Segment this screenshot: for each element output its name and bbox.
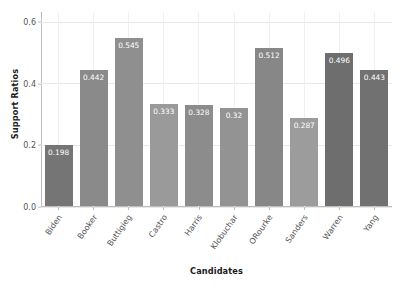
x-tick-mark <box>163 207 164 210</box>
x-tick-mark <box>58 207 59 210</box>
x-tick-label: Castro <box>147 213 169 239</box>
x-tick-label: Klobuchar <box>209 213 239 251</box>
bar-value-label: 0.333 <box>150 107 178 116</box>
bar-value-label: 0.512 <box>255 51 283 60</box>
x-tick-label: Yang <box>362 213 380 234</box>
bar-value-label: 0.442 <box>80 73 108 82</box>
bar: 0.287 <box>290 118 318 206</box>
x-tick-mark <box>304 207 305 210</box>
x-tick-label: ORourke <box>248 213 275 246</box>
x-tick-label: Biden <box>43 213 63 237</box>
bar-value-label: 0.198 <box>45 148 73 157</box>
bar: 0.32 <box>220 108 248 207</box>
bar-series: 0.1980.4420.5450.3330.3280.320.5120.2870… <box>41 12 392 207</box>
x-tick-label: Harris <box>183 213 204 238</box>
x-tick-mark <box>128 207 129 210</box>
x-axis-ticks: BidenBookerButtigiegCastroHarrisKlobucha… <box>41 207 392 265</box>
x-tick-mark <box>199 207 200 210</box>
bar: 0.512 <box>255 48 283 206</box>
bar-value-label: 0.443 <box>360 73 388 82</box>
x-axis-label: Candidates <box>41 266 392 276</box>
x-tick-mark <box>234 207 235 210</box>
x-tick-mark <box>93 207 94 210</box>
y-tick-label: 0.6 <box>23 18 36 27</box>
bar: 0.496 <box>325 53 353 206</box>
x-tick-mark <box>339 207 340 210</box>
bar: 0.545 <box>115 38 143 206</box>
y-axis-label-text: Support Ratios <box>10 68 20 138</box>
x-tick-label: Buttigieg <box>106 213 134 248</box>
bar-value-label: 0.496 <box>325 56 353 65</box>
bar: 0.443 <box>360 70 388 207</box>
bar: 0.442 <box>80 70 108 206</box>
bar-value-label: 0.32 <box>220 111 248 120</box>
bar: 0.198 <box>45 145 73 206</box>
y-tick-label: 0.0 <box>23 203 36 212</box>
plot-area: 0.00.20.40.6 0.1980.4420.5450.3330.3280.… <box>41 12 392 207</box>
x-tick-label: Booker <box>76 213 99 241</box>
x-tick-label: Sanders <box>284 213 310 245</box>
bar: 0.328 <box>185 105 213 206</box>
x-tick-mark <box>374 207 375 210</box>
y-tick-label: 0.4 <box>23 79 36 88</box>
x-tick-mark <box>269 207 270 210</box>
bar-value-label: 0.328 <box>185 108 213 117</box>
y-tick-label: 0.2 <box>23 141 36 150</box>
bar-chart-figure: Support Ratios 0.00.20.40.6 0.1980.4420.… <box>0 0 407 288</box>
bar: 0.333 <box>150 104 178 207</box>
bar-value-label: 0.545 <box>115 41 143 50</box>
x-tick-label: Warren <box>321 213 345 242</box>
bar-value-label: 0.287 <box>290 121 318 130</box>
y-axis-label: Support Ratios <box>8 0 22 207</box>
